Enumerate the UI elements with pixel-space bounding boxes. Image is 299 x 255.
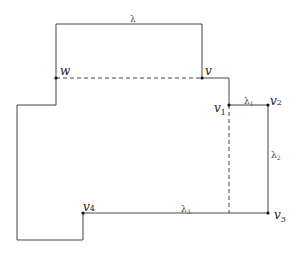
- polygon-diagram: w v v1 v2 v3 v4 λ λ1 λ2 λ3: [0, 0, 299, 255]
- vertex-label-w: w: [60, 64, 71, 78]
- edge-label-lambda1: λ1: [244, 96, 254, 107]
- vertex-label-v1: v1: [214, 101, 226, 117]
- edge-label-lambda: λ: [130, 14, 136, 24]
- vertex-v1-dot: [227, 103, 230, 106]
- vertex-label-v2: v2: [270, 94, 282, 108]
- vertex-v3-dot: [266, 211, 269, 214]
- edge-label-lambda2: λ2: [271, 150, 281, 161]
- vertex-label-v: v: [205, 64, 212, 78]
- boundary-path-right: [17, 78, 268, 240]
- vertex-label-v4: v4: [83, 200, 95, 214]
- vertex-w-dot: [54, 76, 57, 79]
- edge-label-lambda3: λ3: [181, 204, 191, 215]
- boundary-path: [56, 24, 229, 105]
- vertex-v-dot: [200, 76, 203, 79]
- vertex-label-v3: v3: [274, 208, 286, 224]
